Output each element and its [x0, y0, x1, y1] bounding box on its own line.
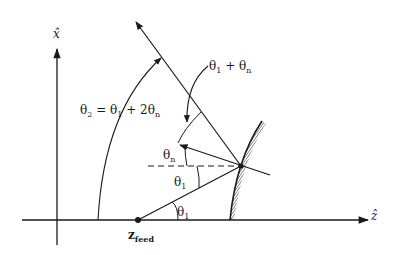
thetan-label: θn	[163, 149, 175, 164]
feed-label-sub: feed	[135, 234, 154, 244]
theta2-equation-label: θ2 = θ1 + 2θn	[80, 104, 160, 119]
feed-label-main: z	[128, 228, 135, 242]
incident-ray	[138, 166, 241, 220]
theta2-rest: = θ	[92, 103, 117, 117]
thetan-subscript: n	[170, 155, 175, 164]
theta1-lower-subscript: 1	[184, 212, 189, 221]
reflector-surface	[230, 121, 266, 220]
theta1-plus-thetan-label: θ1 + θn	[209, 60, 251, 75]
theta1-lower-label: θ1	[177, 206, 189, 221]
surface-normal	[180, 145, 270, 175]
thetan-sub: n	[246, 66, 251, 75]
x-axis-label: x̂	[53, 28, 60, 40]
theta1-upper-subscript: 1	[181, 182, 186, 191]
theta1-plus-rest: + θ	[221, 59, 246, 73]
angle-arc-theta2	[98, 58, 161, 220]
theta1-upper-label: θ1	[174, 176, 186, 191]
angle-arc-normal-to-reflected	[178, 112, 201, 143]
feed-label: zfeed	[128, 229, 154, 243]
angle-arc-theta1-upper	[197, 166, 199, 188]
theta2-rest2: + 2θ	[122, 103, 155, 117]
angle-arc-theta1-plus-thetan	[187, 66, 208, 122]
z-axis-label: ẑ	[371, 210, 377, 222]
feed-point	[135, 217, 141, 223]
angle-arc-thetan	[185, 148, 187, 166]
reflected-ray	[136, 22, 241, 166]
theta2-sub3: n	[155, 110, 160, 119]
reflection-point	[238, 163, 243, 168]
